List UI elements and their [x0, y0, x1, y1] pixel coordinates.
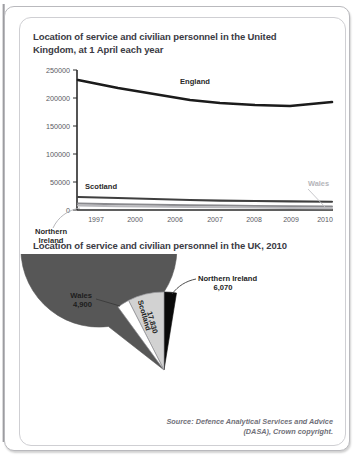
pie-ni-leader-line: [172, 279, 196, 294]
pie-chart-title: Location of service and civilian personn…: [33, 240, 333, 253]
line-label-england: England: [180, 77, 210, 86]
x-tick-label-2010: 2010: [317, 216, 333, 223]
x-tick-label-2008: 2008: [246, 216, 262, 223]
line-chart: 250000 200000 150000 100000 50000 0 1997…: [20, 58, 345, 238]
y-tick-label-50000: 50000: [50, 178, 70, 187]
y-tick-label-0: 0: [66, 206, 70, 215]
clipped-top-text: · · · · ·: [128, 0, 150, 1]
y-tick-label-250000: 250000: [46, 66, 70, 75]
pie-label-england-name: England: [149, 369, 180, 378]
line-label-scotland: Scotland: [85, 182, 117, 191]
pie-slice-northern-ireland: [164, 292, 177, 370]
x-tick-label-2009: 2009: [283, 216, 299, 223]
line-series-scotland: [78, 197, 332, 202]
x-tick-label-1997: 1997: [88, 216, 104, 223]
document-page: · · · · · Location of service and civili…: [0, 0, 353, 466]
line-label-wales: Wales: [308, 179, 329, 188]
pie-label-northern-ireland-name: Northern Ireland: [198, 274, 257, 283]
x-tick-label-2007: 2007: [207, 216, 223, 223]
y-tick-label-100000: 100000: [46, 150, 70, 159]
line-label-northern-ireland-line1: Northern: [35, 227, 67, 236]
pie-label-wales-name: Wales: [70, 291, 92, 300]
pie-label-wales-value: 4,900: [73, 300, 92, 309]
y-tick-label-150000: 150000: [46, 122, 70, 131]
pie-label-england-value: 207,860: [150, 379, 179, 388]
content-card: Location of service and civilian personn…: [19, 17, 346, 446]
pie-label-northern-ireland-value: 6,070: [213, 283, 232, 292]
source-note: Source: Defence Analytical Services and …: [153, 417, 333, 436]
line-chart-title: Location of service and civilian personn…: [33, 31, 313, 56]
x-tick-label-2006: 2006: [167, 216, 183, 223]
page-outer-frame: Location of service and civilian personn…: [4, 6, 350, 451]
wales-leader-line: [308, 189, 325, 207]
y-tick-label-200000: 200000: [46, 94, 70, 103]
x-tick-label-2000: 2000: [127, 216, 143, 223]
